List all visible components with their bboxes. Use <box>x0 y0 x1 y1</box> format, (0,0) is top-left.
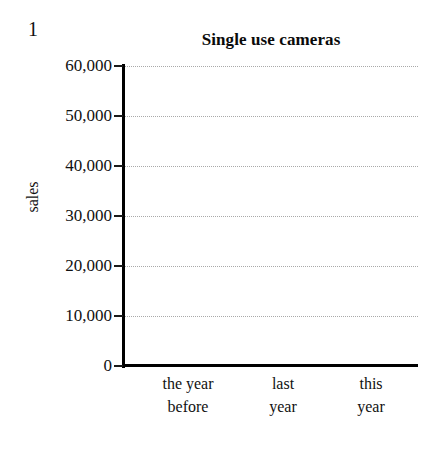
gridline-20000 <box>124 266 418 267</box>
chart-title: Single use cameras <box>124 30 418 50</box>
y-tick-mark-10000 <box>114 315 123 317</box>
x-category-the-year-before: the year before <box>138 372 238 418</box>
bar-chart-figure: 1 Single use cameras sales 60,000 50,000… <box>0 0 431 464</box>
x-category-line1: this <box>329 372 413 395</box>
gridline-50000 <box>124 116 418 117</box>
x-category-line1: last <box>241 372 325 395</box>
y-tick-label-10000: 10,000 <box>4 307 112 325</box>
y-tick-mark-20000 <box>114 265 123 267</box>
gridline-10000 <box>124 316 418 317</box>
y-tick-labels: 60,000 50,000 40,000 30,000 20,000 10,00… <box>0 0 112 464</box>
x-axis-line <box>122 364 418 367</box>
y-tick-label-60000: 60,000 <box>4 57 112 75</box>
x-category-line2: year <box>329 395 413 418</box>
y-tick-mark-30000 <box>114 215 123 217</box>
x-category-line1: the year <box>138 372 238 395</box>
gridline-30000 <box>124 216 418 217</box>
y-tick-label-0: 0 <box>4 357 112 375</box>
y-tick-label-50000: 50,000 <box>4 107 112 125</box>
y-tick-mark-0 <box>114 365 123 367</box>
x-category-line2: before <box>138 395 238 418</box>
y-tick-mark-60000 <box>114 65 123 67</box>
y-tick-mark-50000 <box>114 115 123 117</box>
y-tick-mark-40000 <box>114 165 123 167</box>
y-tick-label-30000: 30,000 <box>4 207 112 225</box>
x-category-line2: year <box>241 395 325 418</box>
x-axis-category-labels: the year before last year this year <box>124 372 418 432</box>
y-tick-label-40000: 40,000 <box>4 157 112 175</box>
x-category-last-year: last year <box>241 372 325 418</box>
x-category-this-year: this year <box>329 372 413 418</box>
gridline-40000 <box>124 166 418 167</box>
plot-area <box>124 66 418 366</box>
gridline-60000 <box>124 66 418 67</box>
y-tick-label-20000: 20,000 <box>4 257 112 275</box>
